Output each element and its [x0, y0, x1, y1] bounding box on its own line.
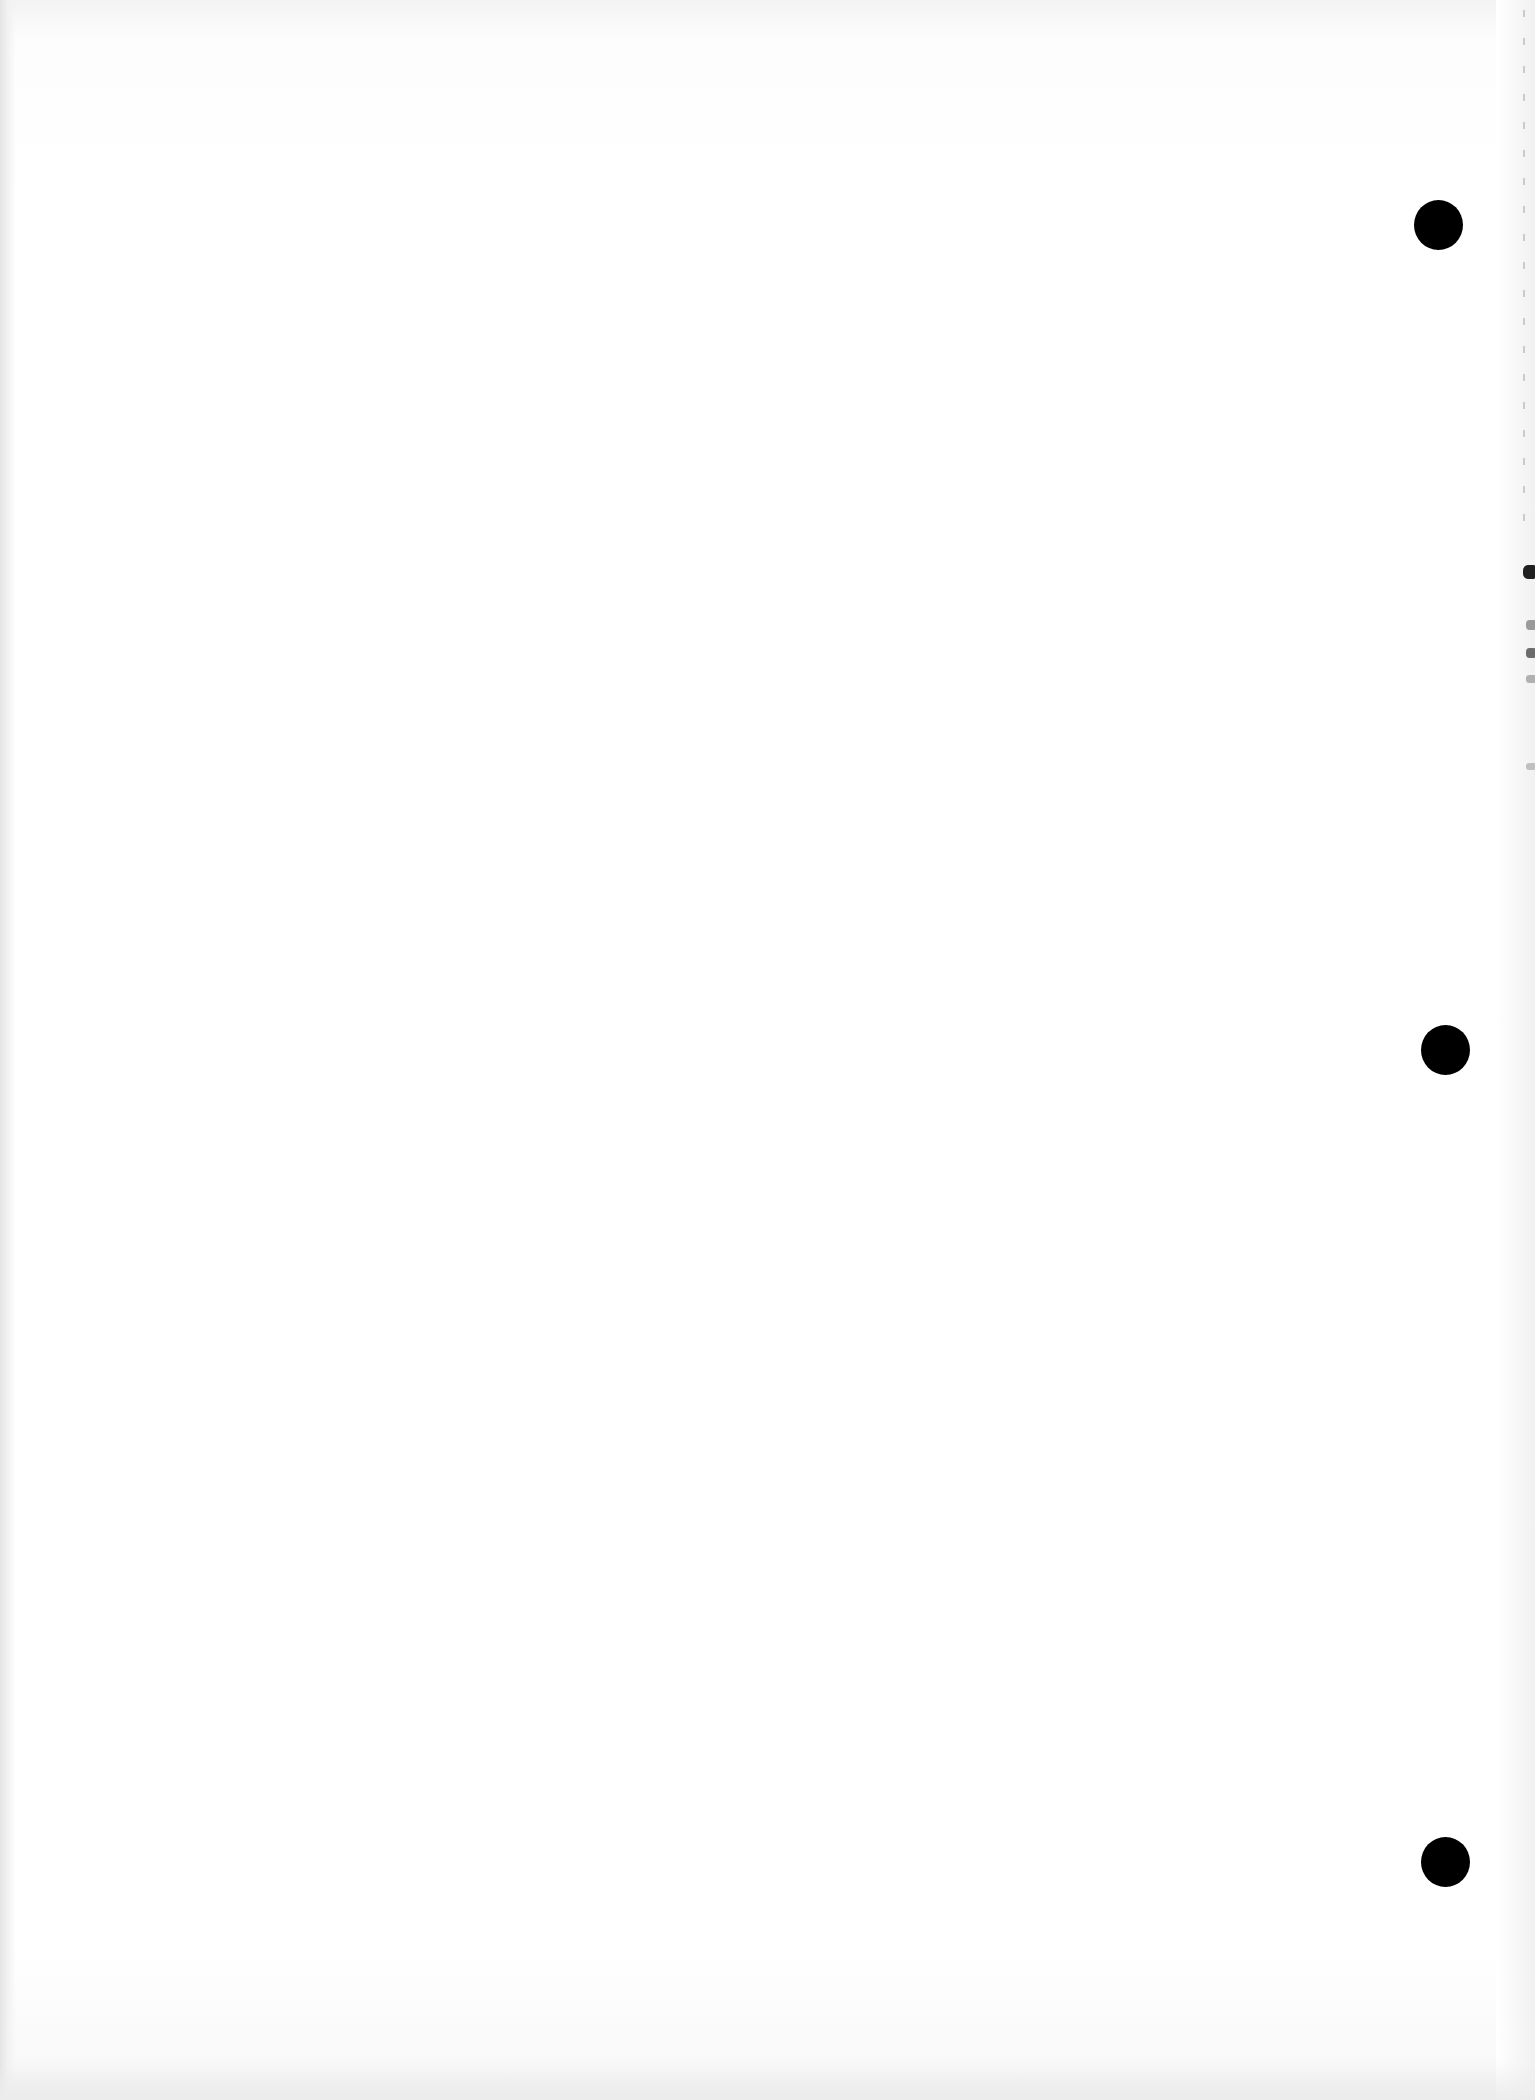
punch-hole-middle [1421, 1025, 1470, 1075]
perforation-line [1523, 10, 1525, 530]
scan-smudge [1526, 763, 1535, 770]
scan-smudge [1526, 675, 1535, 683]
scan-smudge [1526, 648, 1535, 658]
page-bottom-edge-shadow [0, 2060, 1535, 2100]
punch-hole-bottom [1421, 1837, 1470, 1887]
scan-smudge [1526, 620, 1535, 630]
page-right-margin-strip [1496, 0, 1535, 2100]
page-left-edge-shadow [0, 0, 16, 2100]
scanned-page [0, 0, 1535, 2100]
punch-hole-top [1414, 200, 1463, 250]
scan-smudge [1523, 565, 1535, 579]
